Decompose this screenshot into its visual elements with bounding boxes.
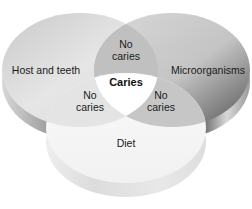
host-and-teeth-label: Host and teeth: [12, 64, 80, 76]
host-diet-label-line2: caries: [76, 101, 104, 113]
venn-diagram: Host and teeth Microorganisms Diet No ca…: [0, 0, 252, 209]
host-micro-label-line2: caries: [112, 50, 140, 62]
micro-diet-label-line2: caries: [147, 101, 175, 113]
host-diet-label-line1: No: [83, 89, 97, 101]
micro-diet-label-line1: No: [154, 89, 168, 101]
microorganisms-label: Microorganisms: [171, 64, 245, 76]
diet-label: Diet: [117, 137, 136, 149]
host-micro-label-line1: No: [119, 38, 133, 50]
caries-center-label: Caries: [109, 76, 143, 88]
